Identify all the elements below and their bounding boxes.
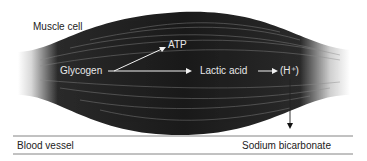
label-lactic-acid: Lactic acid <box>200 65 247 77</box>
label-hydrogen-ion: (H⁺) <box>280 65 299 77</box>
label-atp: ATP <box>168 39 187 51</box>
label-blood-vessel: Blood vessel <box>17 140 74 152</box>
muscle-metabolism-diagram: Muscle cell ATP Glycogen Lactic acid (H⁺… <box>0 0 367 161</box>
label-muscle-cell: Muscle cell <box>33 21 82 33</box>
label-sodium-bicarbonate: Sodium bicarbonate <box>242 140 331 152</box>
label-glycogen: Glycogen <box>60 65 102 77</box>
